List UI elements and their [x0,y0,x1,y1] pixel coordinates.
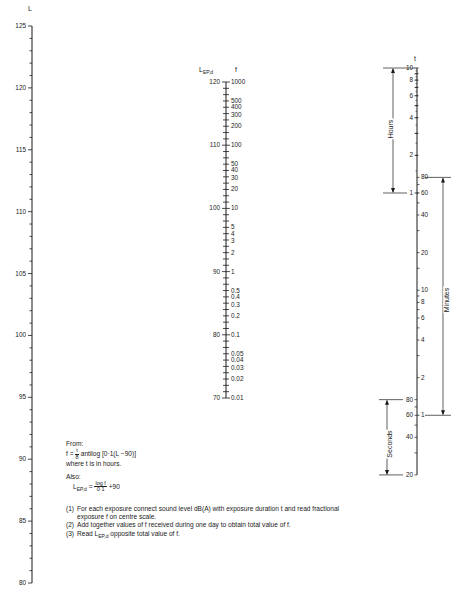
tick-label: 100 [15,331,26,339]
formula-lepd: LEP,d = log f0·1 +90 [66,481,136,493]
tick-label: 110 [16,208,26,216]
tick-label: 4 [421,336,425,344]
tick-label: 2 [409,151,413,159]
tick-label: 80 [406,396,413,404]
center-axis-label-lepd: LEP,d [199,66,213,76]
instruction-step: (1)For each exposure connect sound level… [66,505,366,521]
tick-label: 80 [19,579,26,587]
tick-label: 120 [15,84,26,92]
tick-label: 8 [421,298,425,306]
tick-label: 20 [231,185,238,193]
tick-label: 70 [213,394,220,402]
minutes-range-label: Minutes [443,287,451,314]
center-axis-label-f: f [235,66,237,74]
tick-label: 300 [231,111,242,119]
tick-label: 90 [213,268,220,276]
tick-label: 8 [409,76,413,84]
tick-label: 0.2 [231,312,240,320]
tick-label: 80 [213,331,220,339]
tick-label: 30 [231,174,238,182]
hours-range-label: Hours [387,119,395,140]
formula-f: f = t8 antilog [0·1(L −90)] [66,448,136,460]
tick-label: 85 [19,517,26,525]
tick-label: 125 [15,22,26,30]
instruction-step: (2)Add together values of f received dur… [66,521,366,529]
tick-label: 0.1 [231,331,240,339]
tick-label: 0.04 [231,356,243,364]
tick-label: 1 [231,268,235,276]
tick-label: 4 [409,114,413,122]
tick-label: 4 [231,230,235,238]
tick-label: 0.3 [231,301,240,309]
tick-label: 400 [231,103,242,111]
tick-label: 115 [16,146,26,154]
tick-label: 100 [209,204,220,212]
tick-label: 40 [421,211,428,219]
instructions: (1)For each exposure connect sound level… [66,505,366,540]
tick-label: 40 [406,433,413,441]
tick-label: 0.4 [231,293,240,301]
where-text: where t is in hours. [66,460,136,468]
formula-notes: From: f = t8 antilog [0·1(L −90)] where … [66,440,136,493]
tick-label: 60 [421,189,428,197]
tick-label: 90 [19,455,26,463]
tick-label: 105 [15,270,26,278]
tick-label: 10 [231,204,238,212]
tick-label: 3 [231,237,235,245]
tick-label: 1000 [231,78,245,86]
tick-label: 40 [231,166,238,174]
tick-label: 6 [421,314,425,322]
tick-label: 1 [421,411,425,419]
tick-label: 200 [231,122,242,130]
right-axis-label-t: t [414,55,416,63]
tick-label: 6 [409,92,413,100]
tick-label: 100 [231,141,242,149]
seconds-range-label: Seconds [386,429,394,458]
tick-label: 95 [19,393,26,401]
tick-label: 1 [409,189,413,197]
tick-label: 2 [231,249,235,257]
tick-label: 20 [421,249,428,257]
left-axis-label: L [28,5,32,13]
tick-label: 0.01 [231,394,243,402]
tick-label: 0.02 [231,375,243,383]
tick-label: 110 [210,141,220,149]
instruction-step: (3)Read LEP,d opposite total value of f. [66,530,366,541]
tick-label: 10 [421,286,428,294]
tick-label: 2 [421,374,425,382]
tick-label: 60 [406,411,413,419]
tick-label: 80 [421,173,428,181]
tick-label: 0.03 [231,364,243,372]
tick-label: 10 [406,64,413,72]
tick-label: 20 [406,471,413,479]
tick-label: 120 [209,78,220,86]
